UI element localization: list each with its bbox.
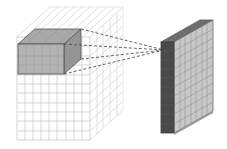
receptive-field-box <box>18 29 81 74</box>
receptive-field-diagram <box>0 0 227 149</box>
receptive-field-front-face <box>18 44 64 74</box>
output-volume-front-face <box>161 42 174 133</box>
figure-canvas <box>0 0 227 149</box>
